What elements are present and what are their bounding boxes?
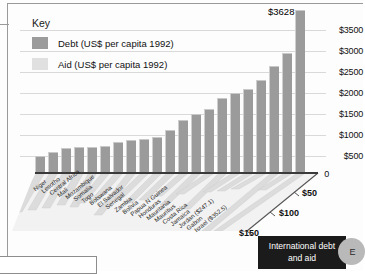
bar-israel-352-5 xyxy=(295,10,305,173)
aid-tick-label-150: $150 xyxy=(239,228,259,238)
bar-costa-rica xyxy=(243,89,253,173)
peak-value-label: $3628 xyxy=(268,6,294,17)
bar-senegal xyxy=(152,137,162,173)
frame-left-rule xyxy=(7,3,8,258)
bar-bolivia xyxy=(178,120,188,173)
y-tick-label-2500: $2500 xyxy=(339,67,363,77)
bar-papua-n-guinea xyxy=(191,114,201,173)
y-tick-label-3500: $3500 xyxy=(339,25,363,35)
bar-lesotho xyxy=(48,152,58,173)
bar-niger xyxy=(35,156,45,173)
y-axis: $3500 $3000 $2500 $2000 $1500 $1000 $500… xyxy=(318,8,363,194)
caption-line-1: International debt xyxy=(269,241,335,251)
frame-bottom-box xyxy=(0,256,97,274)
section-badge: E xyxy=(338,238,365,265)
legend-item-aid: Aid (US$ per capita 1992) xyxy=(32,58,174,70)
y-tick-label-2000: $2000 xyxy=(339,88,363,98)
bar-mauritania xyxy=(217,98,227,174)
frame-top-rule xyxy=(7,3,363,4)
legend-item-debt: Debt (US$ per capita 1992) xyxy=(32,37,174,49)
bar-togo xyxy=(113,142,123,173)
figure-caption: International debt and aid xyxy=(258,236,346,269)
bar-el-salvador xyxy=(139,139,149,173)
y-tick-label-1500: $1500 xyxy=(339,109,363,119)
bar-somalia xyxy=(100,146,110,173)
legend-swatch-aid-icon xyxy=(32,58,48,70)
aid-tick-label-100: $100 xyxy=(279,208,299,218)
bar-zambia xyxy=(165,130,175,173)
bar-gabon xyxy=(282,53,292,173)
legend-title: Key xyxy=(32,17,174,29)
bar-central-africa xyxy=(61,148,71,173)
caption-line-2: and aid xyxy=(288,253,316,263)
bar-botswana xyxy=(126,140,136,173)
bar-jordan-247-1 xyxy=(269,66,279,173)
aid-tick-label-50: $50 xyxy=(302,188,317,198)
frame-tab-rule xyxy=(0,24,9,25)
y-tick-label-500: $500 xyxy=(344,151,363,161)
legend-label-debt: Debt (US$ per capita 1992) xyxy=(58,38,174,49)
y-tick-label-1000: $1000 xyxy=(339,130,363,140)
bar-mozambique xyxy=(87,147,97,173)
bar-mauritius xyxy=(230,93,240,173)
bar-honduras xyxy=(204,109,214,173)
legend-label-aid: Aid (US$ per capita 1992) xyxy=(58,59,167,70)
bar-jamaica xyxy=(256,80,266,173)
legend: Key Debt (US$ per capita 1992) Aid (US$ … xyxy=(32,17,174,79)
y-tick-label-3000: $3000 xyxy=(339,46,363,56)
y-tick-label-0: 0 xyxy=(324,169,329,179)
legend-swatch-debt-icon xyxy=(32,37,48,49)
